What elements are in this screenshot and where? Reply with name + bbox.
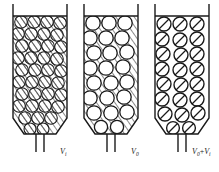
column-1-label-sub: i (65, 151, 67, 157)
column-1: Vi (8, 0, 78, 160)
column-diagram-figure: Vi (0, 0, 219, 172)
column-2-graphic (79, 0, 149, 160)
column-1-label: Vi (60, 148, 66, 156)
column-3-label: V0+Vi (192, 148, 211, 156)
column-2-label: V0 (131, 148, 139, 156)
column-3-label-sub2: i (209, 151, 211, 157)
column-2-label-sub: 0 (136, 151, 139, 157)
column-2-beads (83, 16, 134, 134)
column-1-graphic (8, 0, 78, 160)
column-3-graphic (150, 0, 219, 160)
column-3: V0+Vi (150, 0, 219, 160)
column-2: V0 (79, 0, 149, 160)
column-3-beads (155, 17, 205, 134)
column-3-label-sub: 0 (197, 151, 200, 157)
